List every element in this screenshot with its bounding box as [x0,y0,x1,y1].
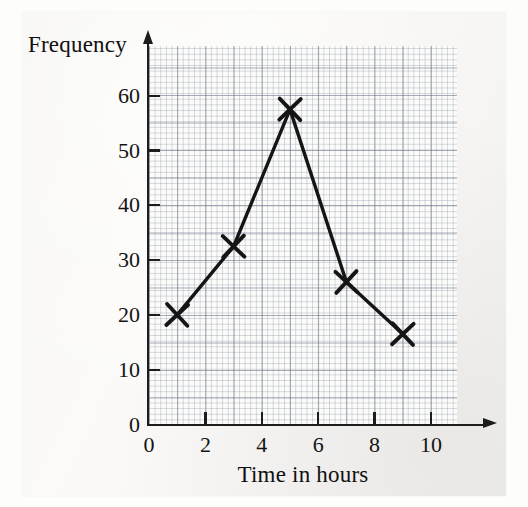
y-axis-tick-label: 50 [100,140,140,162]
x-axis-tick-label: 8 [353,434,397,456]
x-axis-tick-label: 6 [296,434,340,456]
y-axis-tick [149,259,160,261]
y-axis-tick-label: 40 [100,194,140,216]
x-axis-title: Time in hours [149,462,457,488]
x-axis-tick-label: 0 [127,434,171,456]
y-axis-tick-label: 20 [100,304,140,326]
y-axis-tick [149,204,160,206]
graph-paper-grid [149,46,457,425]
x-axis-tick-label: 2 [183,434,227,456]
x-axis-tick [317,412,319,425]
y-axis-tick [149,95,160,97]
x-axis-tick [373,412,375,425]
x-axis-tick [204,412,206,425]
x-axis-tick-label: 4 [240,434,284,456]
chart-page: 0102030405060 0246810 Frequency Time in … [0,0,528,507]
y-axis-tick [149,369,160,371]
y-axis-tick-labels: 0102030405060 [96,0,140,507]
x-axis-tick [261,412,263,425]
y-axis-tick [149,149,160,151]
y-axis-tick-label: 10 [100,359,140,381]
x-axis-tick-label: 10 [409,434,453,456]
y-axis-tick-label: 30 [100,249,140,271]
y-axis-title: Frequency [28,32,127,58]
y-axis-tick-label: 60 [100,85,140,107]
x-axis-arrow-icon [483,418,497,428]
y-axis-tick [149,314,160,316]
y-axis-tick-label: 0 [100,414,140,436]
y-axis-arrow-icon [143,30,153,44]
x-axis-tick [430,412,432,425]
